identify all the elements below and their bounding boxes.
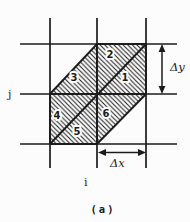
triangle-label-4: 4 — [54, 110, 61, 121]
finite-element-mesh-figure: 1 2 3 4 5 6 Δy Δx j i (a) — [0, 0, 190, 222]
triangle-label-3: 3 — [71, 72, 78, 83]
axis-label-i: i — [84, 176, 88, 189]
delta-y-arrow: Δy — [159, 44, 186, 94]
axis-label-j: j — [6, 88, 11, 101]
mesh-diagram: 1 2 3 4 5 6 Δy Δx j i (a) — [0, 0, 190, 222]
triangle-label-2: 2 — [107, 49, 114, 60]
delta-x-arrow: Δx — [98, 149, 146, 170]
triangle-label-1: 1 — [122, 72, 129, 83]
triangle-label-5: 5 — [74, 126, 81, 137]
delta-y-label: Δy — [169, 60, 185, 74]
arrowhead-up-icon — [159, 44, 166, 52]
figure-caption: (a) — [91, 203, 116, 215]
arrowhead-down-icon — [159, 86, 166, 94]
triangle-label-6: 6 — [103, 108, 110, 119]
arrowhead-left-icon — [98, 149, 106, 156]
delta-x-label: Δx — [109, 156, 125, 170]
arrowhead-right-icon — [138, 149, 146, 156]
